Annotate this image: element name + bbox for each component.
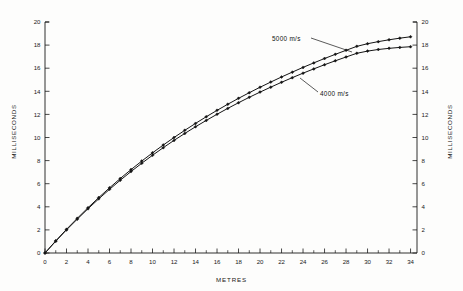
y-tick-label-right: 14 [422, 88, 429, 95]
x-tick-label: 0 [43, 258, 47, 265]
ticks-group [45, 22, 417, 253]
x-tick-label: 24 [300, 258, 307, 265]
chart-figure: 0246810121416182022242628303234002244668… [0, 0, 463, 291]
series-annotation-5000: 5000 m/s [272, 35, 301, 42]
y-tick-label-right: 6 [422, 180, 426, 187]
series-marker [280, 81, 283, 84]
y-tick-label-left: 16 [34, 64, 41, 71]
y-tick-label-left: 18 [34, 41, 41, 48]
series-marker [388, 38, 391, 41]
series-marker [355, 45, 358, 48]
x-tick-label: 30 [364, 258, 371, 265]
series-marker [302, 72, 305, 75]
y-tick-label-left: 20 [34, 18, 41, 25]
series-marker [388, 47, 391, 50]
y-tick-label-right: 20 [422, 18, 429, 25]
series-marker [409, 35, 412, 38]
leader-line-5000 [311, 38, 352, 52]
series-marker [291, 71, 294, 74]
series-marker [366, 50, 369, 53]
series-marker [334, 53, 337, 56]
x-tick-label: 14 [192, 258, 199, 265]
series-line [45, 47, 411, 253]
series-line [45, 37, 411, 253]
x-tick-label: 2 [65, 258, 69, 265]
x-tick-label: 32 [386, 258, 393, 265]
y-axis-right-title: MILLISECONDS [446, 97, 453, 167]
y-tick-label-left: 8 [37, 157, 41, 164]
series-marker [302, 66, 305, 69]
series-marker [366, 42, 369, 45]
y-tick-label-left: 4 [37, 203, 41, 210]
x-tick-label: 20 [257, 258, 264, 265]
series-marker [398, 37, 401, 40]
x-tick-label: 18 [235, 258, 242, 265]
series-marker [345, 55, 348, 58]
y-tick-label-left: 0 [37, 249, 41, 256]
y-tick-label-right: 12 [422, 111, 429, 118]
y-tick-label-left: 2 [37, 226, 41, 233]
y-tick-label-left: 12 [34, 111, 41, 118]
y-tick-label-right: 4 [422, 203, 426, 210]
series-marker [409, 45, 412, 48]
series-annotation-4000: 4000 m/s [320, 90, 349, 97]
y-tick-label-left: 14 [34, 88, 41, 95]
series-marker [291, 76, 294, 79]
y-tick-label-right: 18 [422, 41, 429, 48]
x-tick-label: 8 [129, 258, 133, 265]
series-marker [312, 61, 315, 64]
series-marker [334, 59, 337, 62]
x-tick-label: 22 [278, 258, 285, 265]
x-tick-label: 34 [407, 258, 414, 265]
series-marker [323, 57, 326, 60]
y-tick-label-left: 10 [34, 134, 41, 141]
y-tick-label-right: 0 [422, 249, 426, 256]
x-tick-label: 28 [343, 258, 350, 265]
axes-group [45, 22, 417, 253]
y-tick-label-right: 2 [422, 226, 426, 233]
x-tick-label: 4 [86, 258, 90, 265]
data-series-group [44, 35, 413, 254]
series-marker [269, 86, 272, 89]
leader-line-4000 [300, 78, 318, 92]
series-marker [398, 46, 401, 49]
x-axis-title: METRES [0, 276, 463, 283]
y-tick-label-left: 6 [37, 180, 41, 187]
chart-canvas: 0246810121416182022242628303234002244668… [0, 0, 463, 291]
x-tick-label: 6 [108, 258, 112, 265]
series-marker [355, 52, 358, 55]
series-marker [312, 67, 315, 70]
series-marker [323, 63, 326, 66]
series-marker [377, 48, 380, 51]
x-tick-label: 10 [149, 258, 156, 265]
x-tick-label: 26 [321, 258, 328, 265]
x-tick-label: 16 [214, 258, 221, 265]
y-axis-left-title: MILLISECONDS [10, 97, 17, 167]
y-tick-label-right: 16 [422, 64, 429, 71]
tick-labels-group: 0246810121416182022242628303234002244668… [34, 18, 429, 264]
y-tick-label-right: 8 [422, 157, 426, 164]
x-tick-label: 12 [171, 258, 178, 265]
y-tick-label-right: 10 [422, 134, 429, 141]
series-marker [377, 40, 380, 43]
